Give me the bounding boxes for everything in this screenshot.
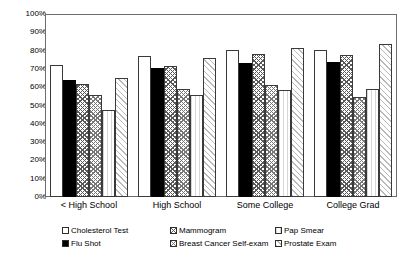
legend-item: Pap Smear <box>275 224 380 236</box>
bar <box>226 50 239 197</box>
bar <box>50 65 63 197</box>
bar-group <box>133 14 221 197</box>
bar <box>327 62 340 197</box>
bar <box>366 89 379 197</box>
y-axis-tick-mark <box>39 197 43 198</box>
chart-legend: Cholesterol TestMammogramPap SmearFlu Sh… <box>62 224 382 249</box>
legend-swatch-icon <box>275 227 282 234</box>
bar <box>340 55 353 197</box>
legend-label: Prostate Exam <box>284 239 336 248</box>
legend-label: Mammogram <box>179 226 226 235</box>
bar <box>151 68 164 197</box>
legend-label: Pap Smear <box>284 226 324 235</box>
y-axis-tick-mark <box>39 14 43 15</box>
legend-item: Cholesterol Test <box>62 224 170 236</box>
x-axis-labels: < High SchoolHigh SchoolSome CollegeColl… <box>45 200 397 211</box>
bar <box>177 89 190 197</box>
x-axis-label: < High School <box>45 200 133 211</box>
x-axis-label: High School <box>133 200 221 211</box>
bar <box>278 90 291 197</box>
bar <box>265 85 278 197</box>
bar-group <box>309 14 397 197</box>
legend-item: Breast Cancer Self-exam <box>170 237 275 249</box>
bar <box>89 95 102 197</box>
bar <box>115 78 128 197</box>
legend-label: Flu Shot <box>71 239 101 248</box>
legend-swatch-icon <box>275 240 282 247</box>
legend-label: Breast Cancer Self-exam <box>179 239 268 248</box>
y-axis-tick-mark <box>39 160 43 161</box>
y-axis-tick-mark <box>39 32 43 33</box>
bar <box>190 95 203 197</box>
y-axis-tick-mark <box>39 179 43 180</box>
legend-swatch-icon <box>62 227 69 234</box>
bar <box>138 56 151 197</box>
bar-groups <box>45 14 397 197</box>
x-axis-label: College Grad <box>309 200 397 211</box>
bar-group <box>45 14 133 197</box>
bar-chart: 100%90%80%70%60%50%40%30%20%10%0% < High… <box>0 0 403 263</box>
bar <box>76 84 89 197</box>
y-axis-tick-mark <box>39 87 43 88</box>
bar <box>314 50 327 197</box>
bar-group <box>221 14 309 197</box>
bar <box>102 110 115 197</box>
bar <box>353 97 366 197</box>
legend-swatch-icon <box>170 227 177 234</box>
y-axis-tick-mark <box>39 106 43 107</box>
legend-swatch-icon <box>62 240 69 247</box>
x-axis-label: Some College <box>221 200 309 211</box>
y-axis-tick-mark <box>39 142 43 143</box>
legend-item: Mammogram <box>170 224 275 236</box>
bar <box>164 66 177 197</box>
bar <box>291 48 304 197</box>
bar <box>379 44 392 197</box>
y-axis-tick-mark <box>39 69 43 70</box>
bar <box>252 54 265 197</box>
bar <box>239 63 252 198</box>
legend-swatch-icon <box>170 240 177 247</box>
legend-label: Cholesterol Test <box>71 226 128 235</box>
y-axis-tick-mark <box>39 51 43 52</box>
legend-item: Prostate Exam <box>275 237 380 249</box>
bar <box>63 80 76 197</box>
legend-item: Flu Shot <box>62 237 170 249</box>
y-axis-tick-mark <box>39 124 43 125</box>
bar <box>203 58 216 197</box>
